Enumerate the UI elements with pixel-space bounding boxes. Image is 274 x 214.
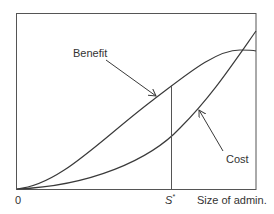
x-axis-label: Size of admin. — [197, 194, 267, 206]
cost-arrow — [199, 110, 223, 151]
benefit-curve — [17, 50, 256, 189]
benefit-label: Benefit — [73, 47, 107, 59]
benefit-arrow — [106, 60, 156, 96]
cost-label: Cost — [226, 153, 249, 165]
plot-frame — [17, 14, 257, 190]
origin-label: 0 — [15, 194, 21, 206]
s-star-label: S* — [165, 193, 175, 206]
cost-benefit-diagram: Benefit Cost 0 S* Size of admin. — [0, 0, 274, 214]
